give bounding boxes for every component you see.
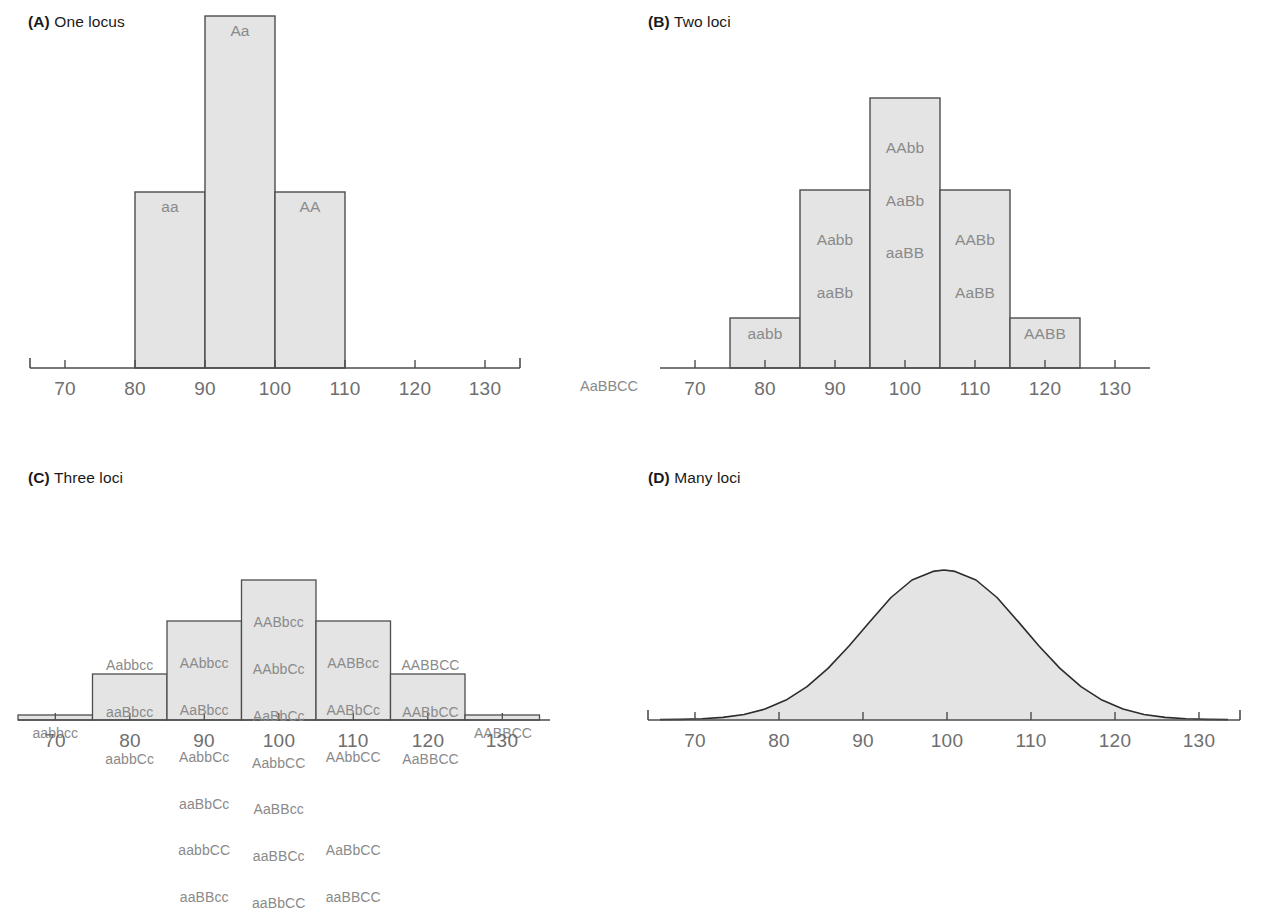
bar-b-4-label-line1: AABb — [940, 231, 1010, 249]
bar-c-4-label-line1: AABbcc — [242, 615, 317, 631]
bar-c-2-label: Aabbcc aaBbcc aabbCc — [93, 627, 168, 799]
bar-b-2-label-line2: aaBb — [800, 284, 870, 302]
bar-a-2 — [205, 16, 275, 368]
panel-a-axis-label-120: 120 — [385, 378, 445, 400]
normal-curve — [660, 570, 1228, 720]
panel-a-axis-label-80: 80 — [105, 378, 165, 400]
panel-a-title-text: One locus — [54, 13, 125, 30]
panel-d-axis-label-120: 120 — [1085, 730, 1145, 752]
panel-c-axis-label-130: 130 — [472, 730, 532, 752]
bar-b-3-label: AAbb AaBb aaBB — [870, 104, 940, 297]
bar-c-4-label-line2: AAbbCc — [242, 662, 317, 678]
bar-b-3-label-line3: aaBB — [870, 244, 940, 262]
bar-c-5-label-line6: aaBBCC — [316, 890, 391, 906]
bar-c-6-label: AABBCC AABbCC AaBBCC — [391, 627, 471, 799]
panel-b-axis-label-80: 80 — [735, 378, 795, 400]
bar-c-5-label-line5: AaBbCC — [316, 843, 391, 859]
panel-b-side-label: AaBBCC — [580, 378, 638, 394]
panel-a-axis-label-110: 110 — [315, 378, 375, 400]
bar-c-3-label-line1: AAbbcc — [167, 656, 242, 672]
bar-a-2-label: Aa — [205, 22, 275, 40]
panel-c-letter: (C) — [28, 469, 50, 486]
panel-b-title-text: Two loci — [674, 13, 731, 30]
panel-a-axis-label-90: 90 — [175, 378, 235, 400]
bar-c-3-label-line5: aabbCC — [167, 843, 242, 859]
bar-c-2-label-line2: aaBbcc — [93, 705, 168, 721]
bar-c-6-label-line2: AABbCC — [391, 705, 471, 721]
panel-c-axis-label-100: 100 — [249, 730, 309, 752]
bar-c-5-label-line2: AABbCc — [316, 703, 391, 719]
bar-c-6-label-line3: AaBBCC — [391, 752, 471, 768]
bar-b-4-label-line2: AaBB — [940, 284, 1010, 302]
bar-a-1 — [135, 192, 205, 368]
bar-b-4-label: AABb AaBB — [940, 196, 1010, 336]
panel-d-title: (D) Many loci — [648, 469, 741, 487]
panel-b: (B) Two loci aabb Aabb aaBb AAbb AaBb aa… — [620, 0, 1268, 420]
panel-a-axis-label-130: 130 — [455, 378, 515, 400]
panel-d-letter: (D) — [648, 469, 670, 486]
bar-b-5-label: AABB — [1010, 325, 1080, 343]
bar-c-4-label-line4: AabbCC — [242, 756, 317, 772]
bar-b-2-label: Aabb aaBb — [800, 196, 870, 336]
bar-c-4-label-line6: aaBBCc — [242, 849, 317, 865]
bar-c-4-label-line3: AaBbCc — [242, 709, 317, 725]
panel-d-axis-label-70: 70 — [665, 730, 725, 752]
bar-c-3-label-line4: aaBbCc — [167, 797, 242, 813]
bar-c-4-label-line7: aaBbCC — [242, 896, 317, 912]
bar-c-3-label: AAbbcc AaBbcc AabbCc aaBbCc aabbCC aaBBc… — [167, 625, 242, 912]
bar-c-3-label-line3: AabbCc — [167, 750, 242, 766]
panel-c-axis-label-110: 110 — [323, 730, 383, 752]
panel-d-axis-label-130: 130 — [1169, 730, 1229, 752]
bar-c-4-label-line5: AaBBcc — [242, 802, 317, 818]
panel-d-axis-label-90: 90 — [833, 730, 893, 752]
bar-c-5-label-line3: AAbbCC — [316, 750, 391, 766]
bar-c-5-label-gap — [316, 797, 391, 813]
panel-c-title-text: Three loci — [54, 469, 123, 486]
panel-b-letter: (B) — [648, 13, 670, 30]
bar-c-3-label-line2: AaBbcc — [167, 703, 242, 719]
bar-b-3-label-line1: AAbb — [870, 139, 940, 157]
panel-d-axis-label-80: 80 — [749, 730, 809, 752]
bar-a-3-label: AA — [275, 198, 345, 216]
bar-c-6-label-line1: AABBCC — [391, 658, 471, 674]
bar-a-3 — [275, 192, 345, 368]
panel-a-axis-label-70: 70 — [35, 378, 95, 400]
panel-d-axis-label-110: 110 — [1001, 730, 1061, 752]
panel-c-axis-label-70: 70 — [25, 730, 85, 752]
bar-b-3-label-line2: AaBb — [870, 192, 940, 210]
panel-b-title: (B) Two loci — [648, 13, 731, 31]
bar-c-2-label-line3: aabbCc — [93, 752, 168, 768]
panel-b-axis-label-90: 90 — [805, 378, 865, 400]
panel-a-axis-label-100: 100 — [245, 378, 305, 400]
panel-a-letter: (A) — [28, 13, 50, 30]
bar-a-1-label: aa — [135, 198, 205, 216]
panel-d: (D) Many loci 70 80 90 100 110 120 130 — [620, 455, 1268, 798]
panel-a-title: (A) One locus — [28, 13, 125, 31]
panel-a: (A) One locus aa Aa AA 70 80 90 100 110 … — [0, 0, 620, 420]
bar-c-5-label-line1: AABBcc — [316, 656, 391, 672]
bar-c-3-label-line6: aaBBcc — [167, 890, 242, 906]
panel-c-axis-label-120: 120 — [398, 730, 458, 752]
panel-b-axis-label-110: 110 — [945, 378, 1005, 400]
panel-d-axis-label-100: 100 — [917, 730, 977, 752]
panel-d-title-text: Many loci — [674, 469, 740, 486]
bar-c-5-label: AABBcc AABbCc AAbbCC AaBbCC aaBBCC — [316, 625, 391, 912]
bar-c-2-label-line1: Aabbcc — [93, 658, 168, 674]
panel-c-axis-label-80: 80 — [100, 730, 160, 752]
panel-b-axis-label-100: 100 — [875, 378, 935, 400]
bar-b-2-label-line1: Aabb — [800, 231, 870, 249]
panel-b-axis-label-120: 120 — [1015, 378, 1075, 400]
bar-b-1-label: aabb — [730, 325, 800, 343]
panel-c-title: (C) Three loci — [28, 469, 123, 487]
panel-c: (C) Three loci aabbcc Aabbcc aaBbcc aabb… — [0, 455, 620, 798]
panel-b-axis-label-130: 130 — [1085, 378, 1145, 400]
panel-b-axis-label-70: 70 — [665, 378, 725, 400]
panel-c-axis-label-90: 90 — [174, 730, 234, 752]
